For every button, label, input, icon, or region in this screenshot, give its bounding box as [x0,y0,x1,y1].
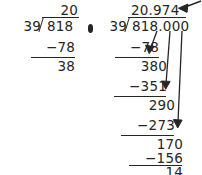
left-step-remainder-1: 38 [30,60,75,74]
right-step-bringdown-2: 290 [128,99,175,113]
right-quotient: 20.974 [131,4,179,18]
right-step-subtrahend-2: −351 [113,80,167,94]
bullet-diamond-icon [88,24,93,33]
right-dividend: 818.000 [132,20,189,34]
bringdown-arrow-3 [173,31,182,128]
right-step-remainder-final: 14 [136,166,183,175]
left-dividend: 818 [47,20,73,34]
right-step-subtrahend-3: −273 [120,119,175,133]
left-quotient: 20 [38,4,78,18]
right-step-subtrahend-1: −78 [113,41,159,55]
right-divisor: 39 [94,20,127,34]
left-divisor: 39 [8,20,41,34]
left-step-subtrahend-1: −78 [30,41,75,55]
worked-example-canvas: 20 39 818 −78 38 20.974 39 818.000 −78 3… [0,0,202,175]
quotient-pointer-arrow [179,1,202,12]
right-step-bringdown-1: 380 [121,60,167,74]
